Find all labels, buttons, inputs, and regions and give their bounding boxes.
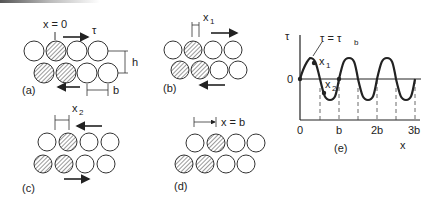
panel-label-d: (d) <box>174 180 187 192</box>
x-tick-0: 0 <box>297 124 303 136</box>
annotation-x1: x <box>203 11 209 23</box>
tau-eq-label: τ = τ <box>320 32 342 44</box>
x1-label: x <box>319 55 325 67</box>
point-b <box>337 77 341 81</box>
tau-sub-label: b <box>354 38 359 47</box>
height-label: h <box>132 56 138 68</box>
point-x2 <box>322 91 326 95</box>
annotation-x2: x <box>72 102 78 114</box>
panel-d: x = b (d) <box>174 116 265 192</box>
x1-sub-label: 1 <box>326 61 331 70</box>
x-tick-b: b <box>336 124 342 136</box>
panel-label-b: (b) <box>163 82 176 94</box>
y-tick-0: 0 <box>287 73 293 85</box>
panel-c: x 2 (c) <box>22 102 119 194</box>
dislocation-diagram: x = 0 τ h b (a) x 1 ( <box>0 0 438 202</box>
x2-label: x <box>325 78 331 90</box>
panel-label-e: (e) <box>334 142 347 154</box>
spacing-label: b <box>113 84 119 96</box>
annotation-x0: x = 0 <box>43 18 67 30</box>
annotation-x1-sub: 1 <box>210 17 215 26</box>
point-origin <box>298 77 302 81</box>
x-axis-label: x <box>400 139 406 151</box>
panel-b: x 1 (b) <box>163 11 247 94</box>
panel-a: x = 0 τ h b (a) <box>22 18 138 96</box>
shear-label: τ <box>92 24 97 36</box>
annotation-xb: x = b <box>221 116 245 128</box>
y-axis-label: τ <box>285 30 290 42</box>
x-tick-2b: 2b <box>371 124 383 136</box>
x-tick-3b: 3b <box>408 124 420 136</box>
panel-label-c: (c) <box>22 182 35 194</box>
annotation-x2-sub: 2 <box>79 108 84 117</box>
panel-e-chart: τ = τ b x 1 x 2 τ 0 0 b 2b 3b x (e) <box>285 30 421 154</box>
point-x1 <box>312 61 316 65</box>
panel-label-a: (a) <box>22 84 35 96</box>
x2-sub-label: 2 <box>332 84 337 93</box>
